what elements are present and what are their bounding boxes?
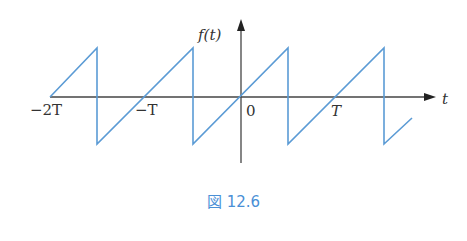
sawtooth-figure: f(t) t −2T −T 0 T [0,0,467,185]
tick-label-zero: 0 [246,102,256,120]
tick-label-minus-T: −T [135,101,158,119]
x-axis-label: t [442,90,449,108]
x-axis-arrow-icon [424,93,436,101]
sawtooth-wave [50,48,412,144]
tick-label-minus-2T: −2T [30,101,62,119]
y-axis-arrow-icon [237,19,245,31]
y-axis-label: f(t) [197,26,221,44]
figure-caption: 図 12.6 [0,190,467,211]
tick-label-T: T [331,102,342,120]
